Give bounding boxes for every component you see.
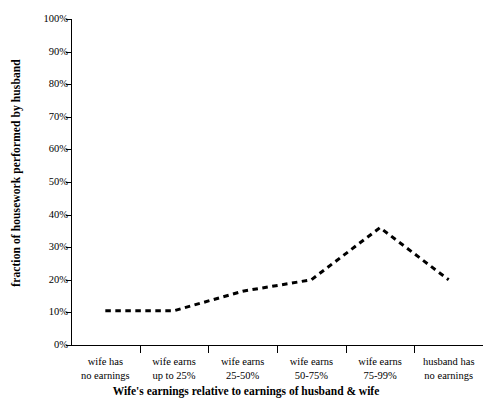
y-axis-title: fraction of housework performed by husba… xyxy=(0,0,32,345)
x-category-label-line: wife earns xyxy=(277,355,346,369)
y-tick-mark xyxy=(66,345,71,346)
chart-figure: fraction of housework performed by husba… xyxy=(0,0,492,411)
y-tick-label: 80% xyxy=(32,79,68,90)
y-tick-label: 0% xyxy=(32,340,68,351)
y-tick-label: 60% xyxy=(32,144,68,155)
x-axis-title: Wife's earnings relative to earnings of … xyxy=(0,385,492,397)
x-category-label-line: wife earns xyxy=(346,355,415,369)
y-tick-label: 50% xyxy=(32,177,68,188)
x-category-label-line: 75-99% xyxy=(346,369,415,383)
x-category-label-line: no earnings xyxy=(414,369,483,383)
y-tick-mark xyxy=(66,19,71,20)
y-tick-mark xyxy=(66,182,71,183)
x-tick-mark xyxy=(208,346,209,353)
y-axis-title-text: fraction of housework performed by husba… xyxy=(10,59,22,287)
x-category-label-line: 25-50% xyxy=(208,369,277,383)
y-tick-label: 30% xyxy=(32,242,68,253)
x-category-label-line: up to 25% xyxy=(140,369,209,383)
x-category-label-line: wife has xyxy=(71,355,140,369)
y-axis-tick-labels: 0%10%20%30%40%50%60%70%80%90%100% xyxy=(30,0,68,411)
y-tick-label: 40% xyxy=(32,209,68,220)
y-tick-mark xyxy=(66,280,71,281)
y-tick-mark xyxy=(66,312,71,313)
x-tick-mark xyxy=(414,346,415,353)
x-category-label-line: wife earns xyxy=(140,355,209,369)
x-tick-mark xyxy=(277,346,278,353)
x-category-label-line: 50-75% xyxy=(277,369,346,383)
y-tick-mark xyxy=(66,52,71,53)
x-category-label-line: wife earns xyxy=(208,355,277,369)
y-tick-mark xyxy=(66,247,71,248)
x-tick-mark xyxy=(346,346,347,353)
x-category-label-line: husband has xyxy=(414,355,483,369)
y-tick-mark xyxy=(66,215,71,216)
series-line-housework xyxy=(105,228,448,311)
y-tick-label: 100% xyxy=(32,14,68,25)
y-tick-label: 70% xyxy=(32,112,68,123)
y-tick-mark xyxy=(66,117,71,118)
y-axis-line xyxy=(71,19,72,345)
y-tick-label: 90% xyxy=(32,46,68,57)
x-category-label-line: no earnings xyxy=(71,369,140,383)
y-tick-mark xyxy=(66,84,71,85)
y-tick-label: 20% xyxy=(32,275,68,286)
plot-area xyxy=(0,0,492,411)
y-tick-label: 10% xyxy=(32,307,68,318)
x-tick-mark xyxy=(140,346,141,353)
y-tick-mark xyxy=(66,149,71,150)
